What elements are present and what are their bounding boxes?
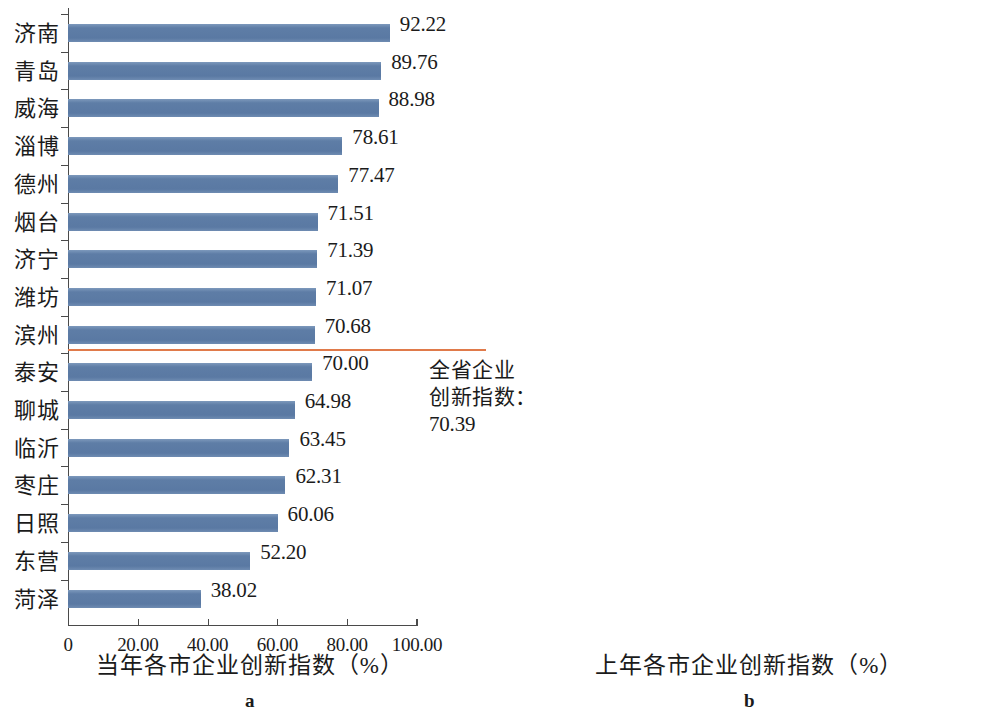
plot-area-a: 020.0040.0060.0080.00100.00 济南92.22青岛89.… xyxy=(68,8,417,626)
category-label: 济南 xyxy=(14,15,60,47)
y-axis-tick xyxy=(61,14,68,15)
category-label: 聊城 xyxy=(14,392,60,424)
bar xyxy=(68,99,379,117)
bar-row: 菏泽38.02 xyxy=(68,580,417,618)
bar xyxy=(68,175,338,193)
bar-value-label: 62.31 xyxy=(295,464,341,489)
category-label: 济宁 xyxy=(14,241,60,273)
y-axis-tick xyxy=(61,316,68,317)
bar-row: 泰安70.00 xyxy=(68,353,417,391)
bar xyxy=(68,24,390,42)
x-axis-tick xyxy=(417,619,418,626)
bar-value-label: 88.98 xyxy=(389,87,435,112)
category-label: 泰安 xyxy=(14,354,60,386)
y-axis-tick xyxy=(61,89,68,90)
bar-value-label: 38.02 xyxy=(211,578,257,603)
bar-row: 济宁71.39 xyxy=(68,240,417,278)
y-axis-tick xyxy=(61,127,68,128)
bar xyxy=(68,514,278,532)
category-label: 德州 xyxy=(14,166,60,198)
y-axis-tick xyxy=(61,504,68,505)
category-label: 潍坊 xyxy=(14,279,60,311)
bar-value-label: 52.20 xyxy=(260,540,306,565)
bar xyxy=(68,326,315,344)
bar-row: 临沂63.45 xyxy=(68,429,417,467)
y-axis-tick xyxy=(61,278,68,279)
bar-row: 东营52.20 xyxy=(68,542,417,580)
bar-value-label: 71.07 xyxy=(326,276,372,301)
category-label: 枣庄 xyxy=(14,467,60,499)
bar-value-label: 71.51 xyxy=(328,201,374,226)
y-axis-tick xyxy=(61,353,68,354)
category-label: 临沂 xyxy=(14,430,60,462)
category-label: 威海 xyxy=(14,90,60,122)
bar-row: 潍坊71.07 xyxy=(68,278,417,316)
y-axis-tick xyxy=(61,466,68,467)
x-axis-tick xyxy=(347,619,348,626)
bar-row: 济南92.22 xyxy=(68,14,417,52)
bar-row: 聊城64.98 xyxy=(68,391,417,429)
bar xyxy=(68,363,312,381)
category-label: 东营 xyxy=(14,543,60,575)
category-label: 烟台 xyxy=(14,204,60,236)
bar xyxy=(68,288,316,306)
panel-sub-label-a: a xyxy=(0,690,500,712)
x-axis-tick xyxy=(138,619,139,626)
category-label: 青岛 xyxy=(14,53,60,85)
bar-row: 淄博78.61 xyxy=(68,127,417,165)
chart-panel-a: 020.0040.0060.0080.00100.00 济南92.22青岛89.… xyxy=(0,0,500,718)
bar-value-label: 77.47 xyxy=(348,163,394,188)
bar-row: 枣庄62.31 xyxy=(68,466,417,504)
category-label: 日照 xyxy=(14,505,60,537)
chart-panel-b: 020.0040.0060.0080.00100.00 济南82.82德州79.… xyxy=(500,0,999,718)
bar xyxy=(68,137,342,155)
x-axis-line-a xyxy=(68,625,417,626)
bar-row: 烟台71.51 xyxy=(68,203,417,241)
category-label: 滨州 xyxy=(14,317,60,349)
y-axis-tick xyxy=(61,52,68,53)
x-axis-title-a: 当年各市企业创新指数（%） xyxy=(0,646,500,680)
y-axis-tick xyxy=(61,203,68,204)
y-axis-tick xyxy=(61,391,68,392)
bar xyxy=(68,552,250,570)
bar-row: 德州77.47 xyxy=(68,165,417,203)
y-axis-tick xyxy=(61,165,68,166)
bar xyxy=(68,401,295,419)
bar xyxy=(68,476,285,494)
bar-row: 威海88.98 xyxy=(68,89,417,127)
y-axis-tick xyxy=(61,240,68,241)
bar-value-label: 63.45 xyxy=(299,427,345,452)
x-axis-title-b: 上年各市企业创新指数（%） xyxy=(500,646,999,680)
bar xyxy=(68,250,317,268)
y-axis-tick xyxy=(61,429,68,430)
y-axis-tick xyxy=(61,580,68,581)
bar-value-label: 89.76 xyxy=(391,50,437,75)
bar xyxy=(68,439,289,457)
category-label: 菏泽 xyxy=(14,581,60,613)
x-axis-tick xyxy=(68,619,69,626)
x-axis-tick xyxy=(277,619,278,626)
bar xyxy=(68,213,318,231)
bar-value-label: 78.61 xyxy=(352,125,398,150)
category-label: 淄博 xyxy=(14,128,60,160)
provincial-average-reference-line xyxy=(68,349,486,351)
y-axis-tick xyxy=(61,542,68,543)
bar xyxy=(68,590,201,608)
bar-value-label: 64.98 xyxy=(305,389,351,414)
dual-bar-chart-figure: 020.0040.0060.0080.00100.00 济南92.22青岛89.… xyxy=(0,0,999,718)
bar-row: 青岛89.76 xyxy=(68,52,417,90)
bar-row: 日照60.06 xyxy=(68,504,417,542)
bar-row: 滨州70.68 xyxy=(68,316,417,354)
bar-value-label: 70.68 xyxy=(325,314,371,339)
bar-value-label: 92.22 xyxy=(400,12,446,37)
bar xyxy=(68,62,381,80)
bar-value-label: 70.00 xyxy=(322,351,368,376)
bar-value-label: 60.06 xyxy=(288,502,334,527)
bar-value-label: 71.39 xyxy=(327,238,373,263)
panel-sub-label-b: b xyxy=(500,690,999,712)
x-axis-tick xyxy=(208,619,209,626)
